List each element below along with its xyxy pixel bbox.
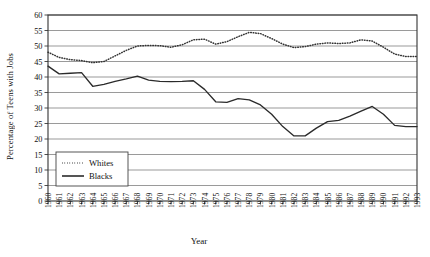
y-tick-label: 55: [34, 27, 42, 36]
x-tick-label: 1992: [402, 193, 411, 208]
y-axis-title-wrapper: Percentage of Teens with Jobs: [2, 0, 18, 212]
x-tick-label: 1991: [391, 193, 400, 208]
y-tick-label: 30: [34, 104, 42, 113]
x-tick-label: 1985: [324, 193, 333, 208]
y-tick-label: 60: [34, 11, 42, 20]
x-tick-label: 1979: [256, 193, 265, 208]
x-tick-label: 1966: [111, 193, 120, 208]
x-tick-label: 1964: [89, 193, 98, 208]
x-axis-title: Year: [191, 236, 208, 246]
series-line-blacks: [48, 66, 417, 136]
y-tick-label: 45: [34, 58, 42, 67]
x-tick-label: 1971: [167, 193, 176, 208]
x-tick-label: 1962: [66, 193, 75, 208]
x-tick-label: 1977: [234, 193, 243, 208]
x-tick-label: 1986: [335, 193, 344, 208]
y-tick-label: 40: [34, 73, 42, 82]
x-tick-label: 1973: [189, 193, 198, 208]
series-line-whites: [48, 32, 417, 62]
x-tick-label: 1963: [78, 193, 87, 208]
chart-legend: WhitesBlacks: [56, 152, 128, 186]
x-tick-label: 1961: [55, 193, 64, 208]
x-axis-ticks-group: 1960196119621963196419651966196719681969…: [44, 193, 422, 208]
legend-label-whites: Whites: [89, 158, 114, 168]
y-axis-ticks-group: 051015202530354045505560: [34, 11, 48, 206]
x-tick-label: 1983: [301, 193, 310, 208]
data-series-group: [48, 32, 417, 136]
x-tick-label: 1982: [290, 193, 299, 208]
y-tick-label: 20: [34, 135, 42, 144]
x-tick-label: 1970: [156, 193, 165, 208]
x-tick-label: 1969: [145, 193, 154, 208]
y-tick-label: 5: [38, 182, 42, 191]
x-tick-label: 1987: [346, 193, 355, 208]
y-tick-label: 50: [34, 42, 42, 51]
y-tick-label: 15: [34, 151, 42, 160]
line-chart-svg: 051015202530354045505560 196019611962196…: [0, 0, 430, 257]
x-tick-label: 1981: [279, 193, 288, 208]
x-tick-label: 1976: [223, 193, 232, 208]
x-tick-label: 1980: [268, 193, 277, 208]
x-tick-label: 1984: [312, 193, 321, 208]
y-tick-label: 25: [34, 120, 42, 129]
x-tick-label: 1978: [245, 193, 254, 208]
x-tick-label: 1967: [122, 193, 131, 208]
x-tick-label: 1989: [368, 193, 377, 208]
x-tick-label: 1972: [178, 193, 187, 208]
x-tick-label: 1974: [201, 193, 210, 208]
y-tick-label: 35: [34, 89, 42, 98]
x-tick-label: 1965: [100, 193, 109, 208]
x-tick-label: 1988: [357, 193, 366, 208]
legend-label-blacks: Blacks: [89, 171, 113, 181]
y-tick-label: 0: [38, 197, 42, 206]
x-tick-label: 1990: [379, 193, 388, 208]
x-axis-title-wrapper: Year: [0, 236, 430, 246]
y-axis-title: Percentage of Teens with Jobs: [5, 53, 15, 160]
x-tick-label: 1975: [212, 193, 221, 208]
chart-figure: Percentage of Teens with Jobs 0510152025…: [0, 0, 430, 257]
y-tick-label: 10: [34, 166, 42, 175]
x-tick-label: 1968: [133, 193, 142, 208]
